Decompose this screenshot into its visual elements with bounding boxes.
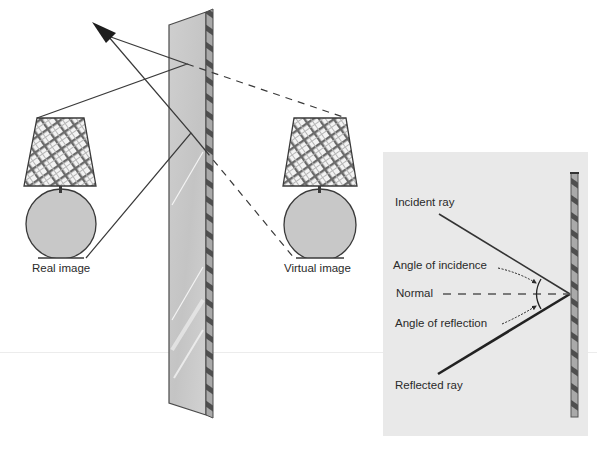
real-lamp-shade [24, 118, 96, 186]
lower-virtual-ray [205, 150, 294, 258]
real-lamp [24, 118, 100, 270]
virtual-lamp [280, 118, 360, 270]
mirror-reflection-diagram: Real image Virtual image Incident ray An… [0, 0, 597, 449]
reflected-ray-line [438, 294, 570, 374]
diagram-drawing [0, 0, 597, 449]
virtual-lamp-base [284, 189, 356, 261]
angle-of-reflection-label: Angle of reflection [395, 318, 487, 330]
plane-mirror [169, 9, 213, 418]
normal-label: Normal [396, 288, 433, 300]
real-lamp-stem [59, 186, 62, 193]
upper-ray [37, 36, 187, 118]
mirror-edge [206, 9, 213, 418]
incident-ray-line [439, 214, 570, 294]
virtual-lamp-shade [283, 118, 357, 186]
eye-direction-arrowhead-icon [92, 22, 116, 43]
incident-ray-label: Incident ray [395, 197, 454, 209]
real-lamp-base [26, 189, 96, 259]
panel-mirror [571, 173, 578, 417]
virtual-lamp-stem [318, 186, 321, 193]
angle-of-incidence-label: Angle of incidence [393, 260, 487, 272]
virtual-image-label: Virtual image [284, 263, 351, 275]
reflection-pointer [502, 306, 536, 324]
reflected-ray-label: Reflected ray [395, 380, 463, 392]
real-image-label: Real image [32, 263, 90, 275]
